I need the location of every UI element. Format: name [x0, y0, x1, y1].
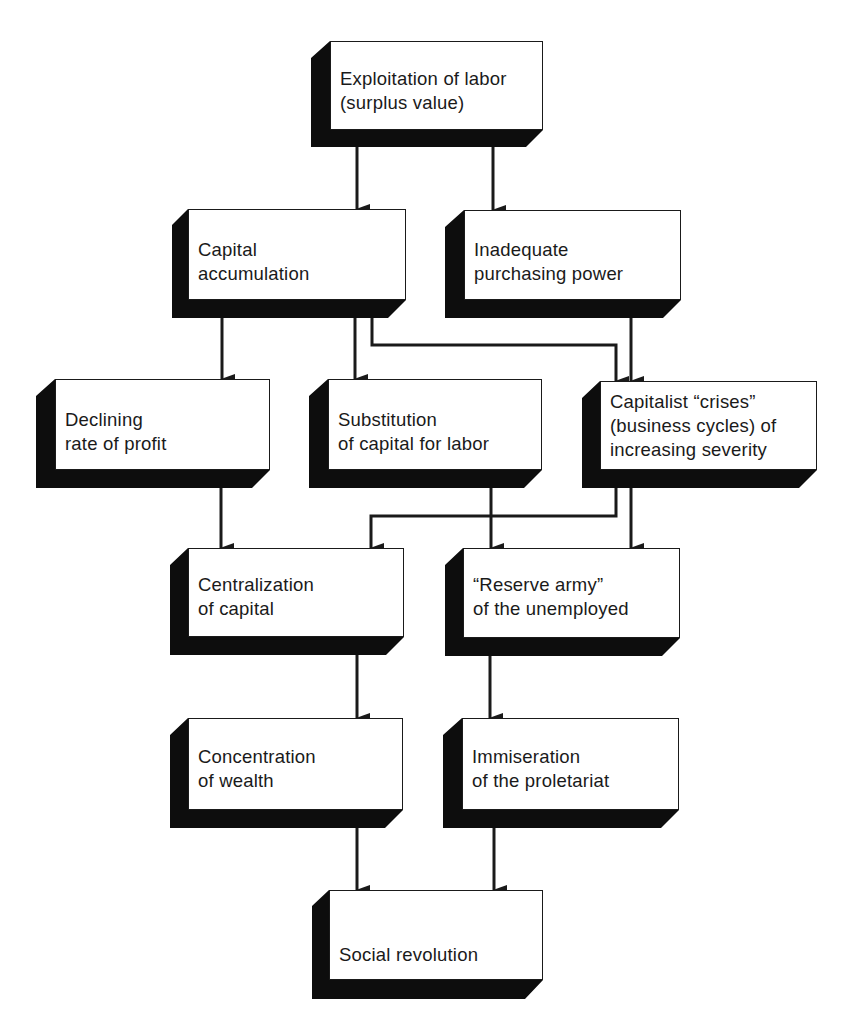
node-label-line: Declining [65, 408, 269, 432]
node-label-line: (surplus value) [340, 91, 542, 115]
node-declining-rate-of-profit: Declining rate of profit [36, 379, 270, 488]
node-immiseration-of-proletariat: Immiseration of the proletariat [443, 718, 679, 828]
node-capitalist-crises: Capitalist “crises” (business cycles) of… [582, 381, 817, 488]
node-label-line: of capital [198, 597, 403, 621]
node-label-line: Capitalist “crises” [610, 390, 816, 414]
node-social-revolution: Social revolution [312, 890, 543, 999]
node-label-line: rate of profit [65, 432, 269, 456]
node-label-line: Inadequate [474, 238, 680, 262]
node-inadequate-purchasing-power: Inadequate purchasing power [445, 210, 681, 318]
node-label-line: “Reserve army” [473, 573, 679, 597]
edge-capital-accumulation-crises [372, 318, 616, 381]
node-label-line: Exploitation of labor [340, 67, 542, 91]
node-substitution-of-capital-for-labor: Substitution of capital for labor [309, 379, 542, 488]
node-label-line: Concentration [198, 745, 402, 769]
node-exploitation-of-labor: Exploitation of labor (surplus value) [311, 41, 543, 147]
node-capital-accumulation: Capital accumulation [172, 209, 406, 318]
node-label-line: Substitution [338, 408, 541, 432]
node-label-line: of wealth [198, 769, 402, 793]
node-label-line: Immiseration [472, 745, 678, 769]
node-reserve-army-of-unemployed: “Reserve army” of the unemployed [445, 548, 680, 656]
node-centralization-of-capital: Centralization of capital [170, 548, 404, 655]
node-label-line: (business cycles) of [610, 414, 816, 438]
box-face: Inadequate purchasing power [464, 210, 681, 300]
edge-crises-centralization [371, 488, 616, 548]
node-label-line: of the proletariat [472, 769, 678, 793]
box-face: Capital accumulation [188, 209, 406, 300]
connector-lines [0, 0, 852, 1032]
box-face: Capitalist “crises” (business cycles) of… [600, 381, 817, 470]
box-face: Substitution of capital for labor [328, 379, 542, 470]
box-face: Exploitation of labor (surplus value) [330, 41, 543, 130]
box-face: Centralization of capital [188, 548, 404, 637]
node-label-line: Centralization [198, 573, 403, 597]
node-label-line: of capital for labor [338, 432, 541, 456]
node-label-line: Social revolution [339, 943, 542, 967]
node-label-line: of the unemployed [473, 597, 679, 621]
node-label-line: increasing severity [610, 438, 816, 462]
box-face: Declining rate of profit [55, 379, 270, 470]
box-face: Social revolution [329, 890, 543, 980]
box-face: “Reserve army” of the unemployed [463, 548, 680, 638]
node-concentration-of-wealth: Concentration of wealth [170, 718, 403, 828]
box-face: Immiseration of the proletariat [462, 718, 679, 810]
box-face: Concentration of wealth [188, 718, 403, 810]
node-label-line: purchasing power [474, 262, 680, 286]
node-label-line: Capital [198, 238, 405, 262]
marxian-causation-diagram: Exploitation of labor (surplus value) Ca… [0, 0, 852, 1032]
node-label-line: accumulation [198, 262, 405, 286]
